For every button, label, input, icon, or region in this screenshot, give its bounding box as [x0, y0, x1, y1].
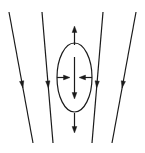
arrow-down-outside-arrowhead: [72, 127, 77, 134]
field-line-2-arrowhead: [46, 81, 50, 88]
field-line-4-stroke: [112, 12, 136, 143]
field-line-diagram: [0, 0, 145, 153]
arrow-left-inward: [57, 75, 70, 80]
arrow-up-outside: [72, 26, 77, 45]
arrow-up-outside-arrowhead: [72, 26, 77, 33]
field-line-3-arrowhead: [95, 81, 99, 88]
field-line-3: [92, 12, 103, 143]
diagram-canvas: [0, 0, 145, 153]
arrow-right-inward-arrowhead: [79, 75, 86, 80]
field-line-1: [9, 12, 33, 143]
field-line-1-stroke: [9, 12, 33, 143]
field-line-1-arrowhead: [19, 81, 23, 88]
field-line-2: [42, 12, 53, 143]
arrow-right-inward: [79, 75, 92, 80]
arrow-down-inside-arrowhead: [72, 93, 77, 100]
arrow-down-outside: [72, 113, 77, 133]
field-line-4-arrowhead: [121, 81, 125, 88]
field-line-4: [112, 12, 136, 143]
force-arrows-group: [57, 26, 92, 133]
arrow-down-inside: [72, 57, 77, 99]
field-line-2-stroke: [42, 12, 53, 143]
field-line-3-stroke: [92, 12, 103, 143]
arrow-left-inward-arrowhead: [64, 75, 71, 80]
